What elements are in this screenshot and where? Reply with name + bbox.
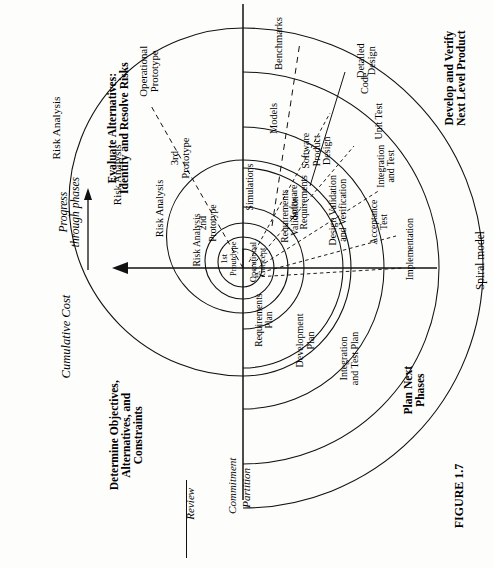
risk-analysis-4: Risk Analysis [51,68,63,188]
acceptance-test: Acceptance Test [369,179,389,265]
dashed-radial-unit-test [254,190,380,270]
risk-analysis-2: Risk Analysis [155,158,166,258]
figure-caption: Spiral model [474,190,486,290]
design-validation-and-verification: Design Validation and Verification [328,145,349,275]
spiral-model-figure: Cumulative Cost Progressthrough phases E… [0,0,494,568]
quadrant-label-plan: Plan Next Phases [403,320,427,460]
implementation: Implementation [405,187,415,311]
integration-and-test-plan: Integration and Test Plan [339,301,360,417]
baseline-label-partition: Partition [241,433,253,543]
code: Code [360,40,371,126]
axis-label-cumulative-cost: Cumulative Cost [60,262,73,412]
figure-number: FIGURE 1.7 [453,440,466,528]
quadrant-label-determine: Determine Objectives, Alternatives, and … [109,335,146,535]
prototype-1: 1st Proutdype [221,231,239,287]
simulations: Simulations [245,144,255,230]
progress-arrowhead [84,188,92,200]
requirements-validation: Requirements Validation [280,164,300,268]
commitment-partition-rule [186,480,187,558]
prototype-3: 3rd Prototype [169,115,191,201]
risk-analysis-3: Risk Analysis [112,120,124,230]
requirements-plan: Requirements Plan [254,272,274,368]
quadrant-label-develop: Develop and Verify Next Level Product [444,0,468,168]
baseline-label-commitment: Commitment [227,431,239,541]
cumulative-cost-arrowhead [112,262,128,274]
benchmarks: Benchmarks [273,0,284,99]
prototype-2: 2nd Prototype [198,188,218,258]
development-plan: Development Plan [295,289,316,393]
prototype-4: Operational Prototype [138,15,161,127]
